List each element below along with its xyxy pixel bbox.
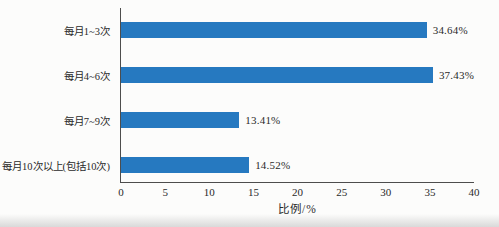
x-tick-label: 0 xyxy=(118,186,124,198)
x-tick-label: 30 xyxy=(380,186,391,198)
bar xyxy=(121,112,239,128)
x-tick-label: 5 xyxy=(162,186,168,198)
value-label: 14.52% xyxy=(249,159,290,171)
x-tick-label: 25 xyxy=(336,186,347,198)
category-label: 每月4~6次 xyxy=(64,68,110,83)
value-label: 34.64% xyxy=(427,24,468,36)
plot-area: 34.64% 37.43% 13.41% 14.52% 0 5 10 15 20… xyxy=(120,8,474,183)
x-axis-title: 比例/% xyxy=(121,200,474,216)
category-label: 每月1~3次 xyxy=(64,23,110,38)
category-axis: 每月1~3次 每月4~6次 每月7~9次 每月10次以上(包括10次) xyxy=(0,8,115,183)
value-label: 13.41% xyxy=(239,114,280,126)
x-axis-ticks: 0 5 10 15 20 25 30 35 40 xyxy=(121,182,474,196)
x-tick-label: 40 xyxy=(469,186,480,198)
bar xyxy=(121,67,433,83)
x-tick-label: 10 xyxy=(204,186,215,198)
x-tick-label: 15 xyxy=(248,186,259,198)
bar-row: 37.43% xyxy=(121,67,474,83)
bar-row: 14.52% xyxy=(121,157,474,173)
category-label: 每月7~9次 xyxy=(64,113,110,128)
x-tick-label: 20 xyxy=(292,186,303,198)
bar-chart: 每月1~3次 每月4~6次 每月7~9次 每月10次以上(包括10次) 34.6… xyxy=(0,0,499,227)
category-label: 每月10次以上(包括10次) xyxy=(2,158,110,173)
value-label: 37.43% xyxy=(433,69,474,81)
bar-row: 13.41% xyxy=(121,112,474,128)
bar xyxy=(121,157,249,173)
bar xyxy=(121,22,427,38)
bar-row: 34.64% xyxy=(121,22,474,38)
x-tick-label: 35 xyxy=(424,186,435,198)
